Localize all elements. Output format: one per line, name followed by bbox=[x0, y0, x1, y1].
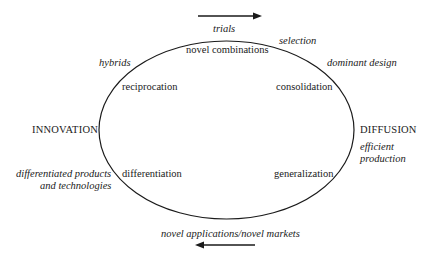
pole-diffusion: DIFFUSION bbox=[360, 124, 417, 136]
top-arrow-icon bbox=[198, 13, 262, 20]
label-trials: trials bbox=[213, 23, 235, 35]
label-selection: selection bbox=[279, 35, 316, 47]
stage-reciprocation: reciprocation bbox=[122, 81, 177, 93]
label-hybrids: hybrids bbox=[99, 57, 131, 69]
pole-innovation: INNOVATION bbox=[32, 124, 98, 136]
label-novel-applications: novel applications/novel markets bbox=[161, 228, 300, 240]
cycle-ellipse bbox=[99, 41, 354, 219]
stage-differentiation: differentiation bbox=[122, 168, 182, 180]
label-and-technologies: and technologies bbox=[40, 180, 111, 192]
label-efficient: efficient bbox=[360, 141, 394, 153]
bottom-arrow-icon bbox=[195, 242, 255, 249]
stage-generalization: generalization bbox=[274, 168, 333, 180]
label-dominant-design: dominant design bbox=[327, 57, 397, 69]
label-differentiated-products: differentiated products bbox=[16, 168, 111, 180]
stage-novel-combinations: novel combinations bbox=[186, 44, 269, 56]
stage-consolidation: consolidation bbox=[276, 81, 333, 93]
label-production: production bbox=[360, 153, 406, 165]
